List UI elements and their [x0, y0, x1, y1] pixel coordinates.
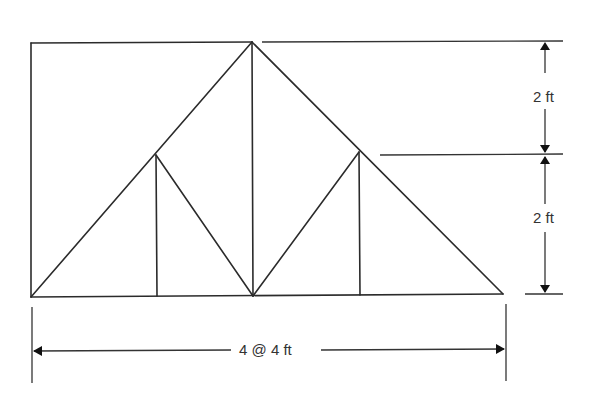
bottom-height-label: 2 ft	[533, 210, 554, 225]
center-vertical	[252, 42, 253, 296]
right-diagonal	[252, 42, 503, 294]
top-chord	[31, 42, 252, 43]
arrow-up-icon	[540, 156, 550, 164]
dimension-lines	[32, 41, 563, 383]
left-diagonal	[31, 42, 252, 297]
right-inner-diagonal	[253, 152, 359, 296]
truss-diagram: 2 ft 2 ft 4 @ 4 ft	[0, 0, 594, 409]
span-dim-line-left	[34, 350, 231, 351]
span-label: 4 @ 4 ft	[239, 342, 292, 357]
mid-extension-line	[380, 154, 563, 155]
truss-members	[31, 42, 503, 297]
arrow-left-icon	[33, 346, 42, 356]
right-mid-vertical	[359, 152, 360, 295]
top-height-label: 2 ft	[533, 89, 554, 104]
arrow-up-icon	[540, 42, 550, 50]
left-mid-vertical	[156, 155, 157, 296]
arrow-down-icon	[540, 145, 550, 153]
truss-drawing	[0, 0, 594, 409]
top-extension-line	[262, 41, 563, 42]
arrow-right-icon	[496, 344, 505, 354]
bottom-chord	[31, 294, 503, 297]
left-inner-diagonal	[156, 155, 253, 296]
arrow-down-icon	[540, 285, 550, 293]
span-dim-line-right	[321, 349, 504, 350]
